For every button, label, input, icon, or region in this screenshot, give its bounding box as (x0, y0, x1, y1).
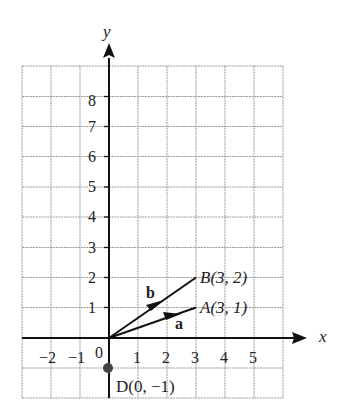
vector-b-label: b (146, 284, 155, 301)
x-tick-neg2: −2 (39, 349, 56, 366)
point-d-label: D(0, −1) (116, 377, 175, 396)
y-tick-6: 6 (88, 148, 96, 165)
y-tick-7: 7 (88, 118, 96, 135)
origin-label: 0 (95, 344, 103, 361)
x-tick-5: 5 (249, 349, 257, 366)
x-tick-3: 3 (191, 349, 199, 366)
x-tick-4: 4 (220, 349, 228, 366)
y-tick-5: 5 (88, 178, 96, 195)
x-axis-label: x (318, 327, 327, 346)
y-tick-1: 1 (88, 299, 96, 316)
x-tick-2: 2 (162, 349, 170, 366)
point-b-label: B(3, 2) (200, 268, 248, 287)
x-tick-labels: −2 −1 1 2 3 4 5 0 (39, 344, 257, 366)
x-tick-1: 1 (133, 349, 141, 366)
y-axis-label: y (101, 22, 111, 41)
y-tick-3: 3 (88, 239, 96, 256)
x-axis (22, 332, 307, 344)
y-tick-4: 4 (88, 208, 96, 225)
x-tick-neg1: −1 (68, 349, 85, 366)
coordinate-diagram: y x 1 2 3 4 5 6 7 8 −2 −1 1 2 3 4 5 0 b … (0, 0, 351, 418)
point-d-marker (103, 363, 113, 373)
vector-a-label: a (175, 315, 183, 332)
grid (22, 66, 283, 398)
y-tick-labels: 1 2 3 4 5 6 7 8 (88, 92, 96, 316)
y-tick-2: 2 (88, 269, 96, 286)
y-tick-8: 8 (88, 92, 96, 109)
point-a-label: A(3, 1) (199, 298, 248, 317)
